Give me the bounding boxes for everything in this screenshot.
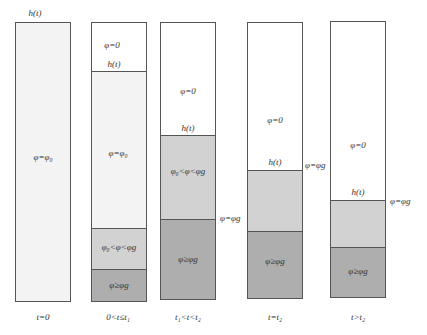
time-label-t0: t=0: [36, 312, 49, 322]
col3-gel-front-label: φ=φg: [220, 213, 241, 223]
col3-height-label: h(t): [182, 123, 195, 133]
col3-gelled-label: φ≥φg: [178, 254, 197, 264]
col4-gel-front-label: φ=φg: [305, 160, 326, 170]
time-label-t1-t2: t₁<t<t₂: [175, 312, 201, 322]
time-label-0-t1: 0<t≤t₁: [106, 312, 130, 322]
column-after-t2: [330, 21, 386, 298]
col4-height-label: h(t): [269, 157, 282, 167]
empty-region: [331, 22, 385, 200]
empty-region: [161, 23, 215, 135]
col3-gel-forming-label: φ₀<φ<φg: [171, 166, 206, 176]
col5-gel-front-label: φ=φg: [390, 196, 411, 206]
col4-empty-label: φ=0: [267, 115, 283, 125]
gel-forming-region: [161, 135, 215, 219]
time-label-t2: t=t₂: [268, 312, 282, 322]
col5-gelled-label: φ≥φg: [348, 266, 367, 276]
time-label-after-t2: t>t₂: [351, 312, 365, 322]
column-t0: [15, 22, 71, 302]
col2-empty-label: φ=0: [104, 40, 120, 50]
gel-forming-region: [331, 200, 385, 247]
col4-gelled-label: φ≥φg: [265, 256, 284, 266]
col3-empty-label: φ=0: [180, 86, 196, 96]
col5-height-label: h(t): [352, 187, 365, 197]
empty-region: [248, 23, 302, 170]
col2-height-label: h(t): [108, 59, 121, 69]
col5-empty-label: φ=0: [350, 140, 366, 150]
col1-height-label: h(t): [29, 8, 42, 18]
col1-region-label: φ=φ₀: [33, 152, 52, 162]
col2-gel-forming-label: φ₀<φ<φg: [102, 242, 137, 252]
gel-forming-region: [248, 170, 302, 231]
col2-initial-label: φ=φ₀: [108, 148, 127, 158]
col2-gelled-label: φ≥φg: [109, 280, 128, 290]
initial-region: [16, 23, 70, 301]
